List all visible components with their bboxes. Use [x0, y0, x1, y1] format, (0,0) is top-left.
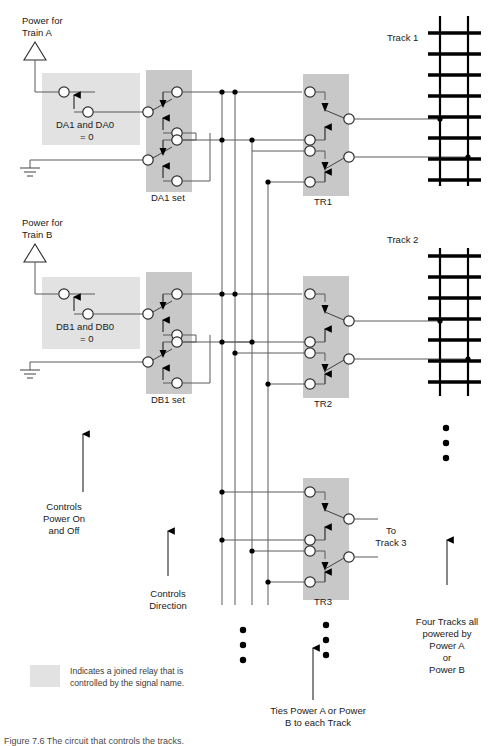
ellipsis-dot — [443, 455, 449, 461]
to-track-3-line1: To — [386, 525, 396, 536]
controls-power-line3: and Off — [49, 525, 80, 536]
junction-dot — [219, 537, 224, 542]
four-tracks-line5: Power B — [429, 664, 465, 675]
tr1-label: TR1 — [314, 196, 332, 207]
ties-power-line1: Ties Power A or Power — [270, 705, 366, 716]
tr1-in-d-node[interactable] — [305, 177, 315, 187]
db-enable-closed-node[interactable] — [83, 309, 93, 319]
da1-upper-common-node[interactable] — [143, 107, 153, 117]
tr2-label: TR2 — [314, 398, 332, 409]
track-1-connection-dot — [465, 154, 470, 159]
ellipsis-dot — [240, 642, 246, 648]
ellipsis-dot — [240, 627, 246, 633]
tr3-input-feeds — [222, 492, 378, 582]
track-1-graphic — [428, 16, 481, 186]
da-enable-closed-node[interactable] — [83, 107, 93, 117]
tr1-in-b-node[interactable] — [305, 135, 315, 145]
track-2-connection-dot — [437, 318, 442, 323]
tr1-out-track-a-node[interactable] — [344, 114, 354, 124]
tr3-out-track-a-node[interactable] — [344, 514, 354, 524]
four-tracks-line1: Four Tracks all — [416, 616, 478, 627]
junction-dot — [219, 489, 224, 494]
tr2-in-a-node[interactable] — [305, 289, 315, 299]
controls-direction-line2: Direction — [149, 600, 187, 611]
power-b-label-line2: Train B — [22, 229, 52, 240]
tr1-in-a-node[interactable] — [305, 87, 315, 97]
da1-lower-nc-node[interactable] — [172, 135, 182, 145]
tr2-in-d-node[interactable] — [305, 379, 315, 389]
ground-b-wire — [30, 362, 143, 370]
junction-dot-group — [219, 89, 270, 584]
db1-lower-no-node[interactable] — [172, 378, 182, 388]
junction-dot — [232, 291, 237, 296]
tr3-out-track-b-node[interactable] — [344, 552, 354, 562]
tr3-in-c-node[interactable] — [305, 546, 315, 556]
annotation-ties-power: Ties Power A or Power B to each Track — [270, 648, 366, 728]
annotation-controls-direction: Controls Direction — [149, 531, 187, 611]
power-a-label-line1: Power for — [22, 15, 63, 26]
power-a-triangle-icon — [24, 42, 46, 60]
controls-direction-line1: Controls — [150, 588, 186, 599]
controls-power-line2: Power On — [43, 513, 85, 524]
junction-dot — [249, 339, 254, 344]
da-enable-label-line2: = 0 — [80, 131, 93, 142]
tr2-out-track-b-node[interactable] — [344, 354, 354, 364]
ties-power-line2: B to each Track — [285, 717, 351, 728]
relay-shade-group — [30, 70, 349, 687]
junction-dot — [232, 350, 237, 355]
db-enable-label-line1: DB1 and DB0 — [56, 321, 114, 332]
annotation-four-tracks: Four Tracks all powered by Power A or Po… — [416, 540, 478, 675]
tr3-in-a-node[interactable] — [305, 487, 315, 497]
da1-set-label: DA1 set — [151, 192, 185, 203]
db1-upper-common-node[interactable] — [143, 309, 153, 319]
db1-lower-common-node[interactable] — [143, 357, 153, 367]
ground-b — [20, 362, 143, 378]
power-b-triangle-icon — [24, 244, 46, 262]
db1-set-label: DB1 set — [151, 394, 185, 405]
ellipsis-dot — [443, 440, 449, 446]
db-enable-pole-node[interactable] — [59, 289, 69, 299]
four-tracks-line3: Power A — [429, 640, 465, 651]
power-b-label-line1: Power for — [22, 217, 63, 228]
tr2-in-b-node[interactable] — [305, 337, 315, 347]
ellipsis-dot — [240, 657, 246, 663]
to-track-3-line2: Track 3 — [375, 537, 406, 548]
da1-lower-no-node[interactable] — [172, 176, 182, 186]
junction-dot — [249, 137, 254, 142]
ellipsis-tracks — [443, 425, 449, 461]
junction-dot — [219, 137, 224, 142]
tr1-in-c-node[interactable] — [305, 146, 315, 156]
db1-lower-nc-node[interactable] — [172, 337, 182, 347]
tr2-in-c-node[interactable] — [305, 348, 315, 358]
legend: Indicates a joined relay that is control… — [70, 666, 184, 688]
junction-dot — [265, 179, 270, 184]
controls-power-line1: Controls — [46, 501, 82, 512]
four-tracks-line2: powered by — [422, 628, 471, 639]
db1-upper-nc-node[interactable] — [172, 289, 182, 299]
tr3-in-d-node[interactable] — [305, 577, 315, 587]
tr1-out-track-b-node[interactable] — [344, 152, 354, 162]
ellipsis-buses — [240, 627, 246, 663]
ground-a — [20, 160, 143, 176]
circuit-diagram: Power for Train A DA1 and DA0 = 0 — [0, 0, 500, 746]
power-a-label-line2: Train A — [22, 27, 52, 38]
da1-set-shade — [146, 70, 192, 192]
da-enable-pole-node[interactable] — [59, 87, 69, 97]
ellipsis-dot — [443, 425, 449, 431]
ellipsis-relays — [323, 622, 329, 658]
da-enable-label-line1: DA1 and DA0 — [56, 119, 114, 130]
track-1-label: Track 1 — [387, 32, 418, 43]
db1-output-wiring — [182, 294, 302, 383]
tr3-in-b-node[interactable] — [305, 535, 315, 545]
da1-lower-common-node[interactable] — [143, 155, 153, 165]
track-2-label: Track 2 — [387, 234, 418, 245]
junction-dot — [219, 339, 224, 344]
da1-upper-nc-node[interactable] — [172, 87, 182, 97]
junction-dot — [265, 579, 270, 584]
legend-swatch — [30, 665, 60, 687]
four-tracks-line4: or — [443, 652, 451, 663]
tr2-out-track-a-node[interactable] — [344, 316, 354, 326]
annotation-to-track-3: To Track 3 — [375, 525, 406, 548]
db1-set-shade — [146, 272, 192, 394]
ground-a-wire — [30, 160, 143, 168]
